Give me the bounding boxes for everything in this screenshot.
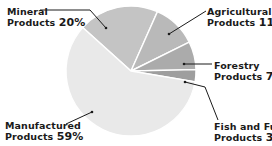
label-fish-and-fur: Fish and Fur Products 3%: [214, 121, 272, 143]
leader-agricultural-dot: [168, 33, 171, 36]
label-fish-line2: Products 3%: [214, 132, 272, 143]
leader-forestry-dot: [183, 63, 186, 66]
label-agricultural-line2: Products 11%: [207, 17, 272, 28]
label-manufactured-line2: Products 59%: [5, 131, 83, 142]
label-forestry-line2: Products 7%: [214, 71, 272, 82]
label-mineral-line2: Products 20%: [7, 17, 85, 28]
leader-mineral-dot: [105, 27, 108, 30]
label-forestry: Forestry Products 7%: [214, 60, 272, 82]
pie-slices: [66, 6, 196, 136]
label-agricultural: Agricultural Products 11%: [207, 6, 272, 28]
label-manufactured: Manufactured Products 59%: [5, 120, 83, 142]
leader-fish-and-fur-dot: [184, 81, 187, 84]
leader-manufactured-dot: [91, 111, 94, 114]
label-fish-line1: Fish and Fur: [214, 121, 272, 132]
label-forestry-line1: Forestry: [214, 60, 272, 71]
label-mineral: Mineral Products 20%: [7, 6, 85, 28]
